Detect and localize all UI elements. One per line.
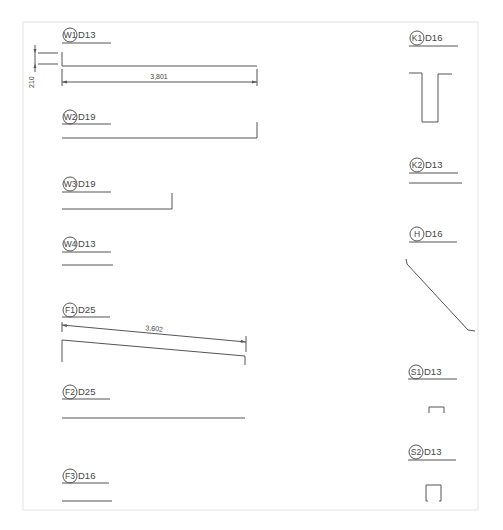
bar-diameter: D16 [78, 470, 95, 481]
bar-k2: K2 D13 [409, 158, 462, 183]
bar-diameter: D19 [78, 178, 95, 189]
bar-mark: S1 [411, 367, 422, 377]
bar-w1: W1 D13 210 3,801 [28, 28, 257, 88]
bar-w3: W3 D19 [62, 177, 172, 209]
bar-mark: F2 [65, 387, 75, 397]
bar-mark: W3 [64, 179, 77, 189]
bar-mark: F1 [65, 305, 75, 315]
bar-shape [62, 52, 257, 66]
dimension-length: 3,602 [145, 324, 163, 333]
bar-shape [406, 259, 475, 331]
bar-diameter: D25 [78, 386, 95, 397]
dimension-hook: 210 [28, 76, 35, 88]
bar-mark: F3 [65, 471, 75, 481]
bar-diameter: D13 [424, 446, 441, 457]
bar-w4: W4 D13 [62, 237, 113, 265]
bar-mark: K2 [412, 160, 423, 170]
bar-shape [409, 73, 452, 122]
bar-s2: S2 D13 [408, 445, 456, 501]
bar-diameter: D16 [425, 228, 442, 239]
bar-diameter: D19 [78, 111, 95, 122]
bar-diameter: D13 [424, 366, 441, 377]
drawing-frame [23, 22, 478, 510]
bar-diameter: D16 [425, 32, 442, 43]
bar-shape [62, 340, 245, 365]
bar-mark: W2 [64, 112, 77, 122]
bar-k1: K1 D16 [409, 31, 458, 122]
bar-mark: W1 [64, 30, 77, 40]
bar-h: H D16 [406, 227, 475, 331]
drawing-sheet: W1 D13 210 3,801 W2 D19 W3 D19 [0, 0, 503, 530]
bar-diameter: D13 [425, 159, 442, 170]
bar-w2: W2 D19 [62, 110, 257, 138]
bar-shape [429, 407, 444, 413]
bar-shape [426, 485, 441, 501]
bar-mark: H [414, 229, 420, 239]
bar-diameter: D13 [78, 238, 95, 249]
bar-diameter: D25 [78, 304, 95, 315]
bar-f1: F1 D25 3,602 [62, 303, 246, 365]
bar-diameter: D13 [78, 29, 95, 40]
bar-mark: K1 [412, 33, 423, 43]
dimension-length: 3,801 [150, 73, 168, 80]
bar-f2: F2 D25 [62, 385, 245, 418]
bar-s1: S1 D13 [408, 365, 457, 413]
bar-mark: S2 [411, 447, 422, 457]
bar-f3: F3 D16 [62, 469, 112, 501]
bar-shape [62, 193, 172, 209]
bar-mark: W4 [64, 239, 77, 249]
